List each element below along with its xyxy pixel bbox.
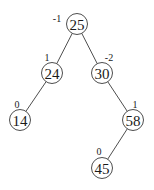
balance-factor-label: -2 (105, 52, 113, 63)
node-key: 14 (13, 113, 29, 129)
nodes-layer: 25 -1 24 1 30 -2 14 0 58 1 45 0 (10, 13, 144, 179)
balance-factor-label: -1 (53, 13, 61, 24)
edge-24-14 (26, 82, 46, 112)
tree-diagram: 25 -1 24 1 30 -2 14 0 58 1 45 0 (0, 0, 154, 190)
node-58: 58 1 (123, 99, 144, 131)
balance-factor-label: 0 (15, 99, 20, 110)
edge-25-24 (57, 33, 72, 63)
balance-factor-label: 1 (45, 52, 50, 63)
node-key: 45 (95, 161, 110, 177)
node-25: 25 -1 (53, 13, 88, 35)
edge-25-30 (82, 33, 97, 63)
edge-58-45 (108, 129, 128, 159)
node-key: 25 (70, 17, 85, 33)
balance-factor-label: 0 (97, 146, 102, 157)
node-14: 14 0 (10, 99, 31, 131)
node-24: 24 1 (42, 52, 63, 84)
node-45: 45 0 (92, 146, 113, 179)
balance-factor-label: 1 (133, 99, 138, 110)
node-30: 30 -2 (92, 52, 114, 84)
node-key: 24 (45, 66, 61, 82)
edge-30-58 (108, 82, 127, 111)
node-key: 58 (126, 113, 141, 129)
node-key: 30 (95, 66, 110, 82)
